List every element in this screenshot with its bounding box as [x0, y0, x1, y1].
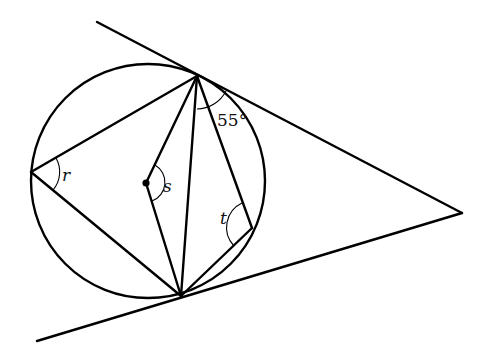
chord-top-bottom: [181, 76, 197, 296]
radius-bottom: [146, 183, 181, 296]
angle-arc-55: [197, 91, 226, 109]
angle-label-55: 55°: [217, 110, 247, 130]
chord-left-bottom: [31, 172, 181, 296]
angle-label-s: s: [163, 176, 172, 196]
angle-label-r: r: [62, 165, 71, 185]
angle-arc-r: [53, 158, 60, 190]
upper-tangent-line: [97, 22, 462, 213]
center-point: [142, 179, 149, 186]
angle-label-t: t: [220, 208, 227, 228]
chord-top-left: [31, 76, 197, 172]
lower-tangent-line: [37, 213, 462, 341]
geometry-diagram: 55° r s t: [0, 0, 492, 358]
